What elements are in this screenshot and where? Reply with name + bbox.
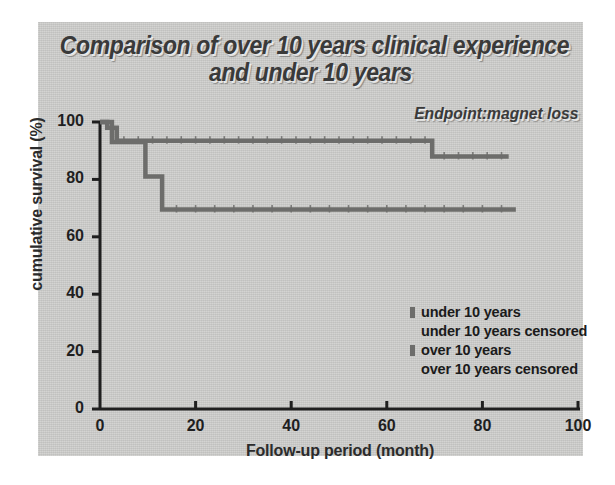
x-axis-title: Follow-up period (month) <box>100 442 580 460</box>
plot-area <box>0 0 615 485</box>
chart-legend: under 10 yearsunder 10 years censoredove… <box>410 303 587 379</box>
x-tick-label: 20 <box>176 417 216 435</box>
legend-item: under 10 years <box>410 303 587 321</box>
y-tick-label: 40 <box>44 284 84 302</box>
y-tick-label: 20 <box>44 342 84 360</box>
x-tick-label: 40 <box>271 417 311 435</box>
y-axis-title: cumulative survival (%) <box>28 89 46 319</box>
legend-item: over 10 years <box>410 341 587 359</box>
x-tick-label: 80 <box>462 417 502 435</box>
y-tick-label: 80 <box>44 169 84 187</box>
legend-label: over 10 years censored <box>421 361 578 377</box>
legend-swatch-icon <box>410 345 415 356</box>
y-tick-label: 60 <box>44 227 84 245</box>
x-tick-label: 0 <box>80 417 120 435</box>
legend-item: under 10 years censored <box>410 322 587 340</box>
legend-label: over 10 years <box>421 342 511 358</box>
legend-label: under 10 years <box>421 304 521 320</box>
legend-item: over 10 years censored <box>410 360 587 378</box>
legend-swatch-blank-icon <box>410 326 415 337</box>
legend-swatch-icon <box>410 307 415 318</box>
x-tick-label: 60 <box>367 417 407 435</box>
legend-swatch-blank-icon <box>410 364 415 375</box>
figure-root: Comparison of over 10 years clinical exp… <box>0 0 615 485</box>
x-tick-label: 100 <box>558 417 598 435</box>
survival-curve-over-10-years <box>100 122 516 210</box>
y-tick-label: 100 <box>44 112 84 130</box>
legend-label: under 10 years censored <box>421 323 587 339</box>
y-tick-label: 0 <box>44 399 84 417</box>
survival-curve-under-10-years <box>100 122 509 156</box>
